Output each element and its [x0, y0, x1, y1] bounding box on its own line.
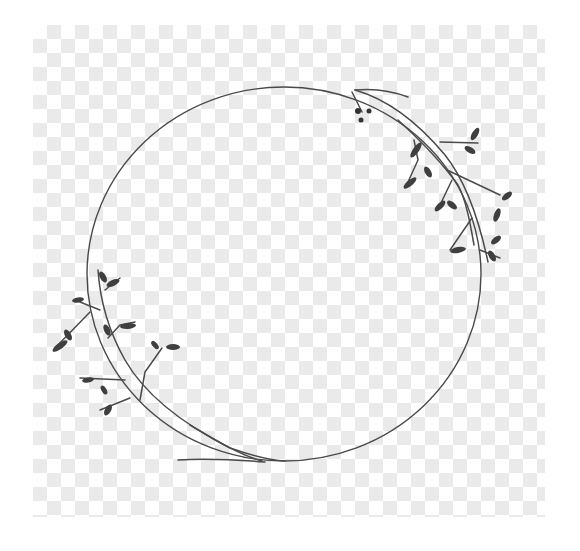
berry-icon	[367, 109, 372, 114]
image-canvas	[0, 0, 580, 551]
top-right-branch	[355, 90, 488, 262]
leaf-icon	[463, 144, 476, 155]
leaf-icon	[492, 207, 502, 222]
bottom-left-branch	[98, 270, 285, 461]
leaf-icon	[422, 165, 433, 178]
leaf-icon	[433, 199, 447, 213]
leaf-icon	[489, 234, 502, 246]
leaf-icon	[166, 344, 180, 350]
bottom-left-twig-e	[140, 348, 162, 400]
bottom-twig-long-b	[178, 459, 265, 462]
leaf-icon	[120, 322, 136, 329]
leaf-icon	[150, 340, 160, 351]
leaf-icon	[445, 199, 458, 211]
leaf-icon	[408, 141, 423, 159]
wreath-berries	[355, 108, 372, 123]
top-right-twig-e	[450, 218, 472, 250]
berry-icon	[355, 108, 361, 114]
floral-wreath-illustration	[0, 0, 580, 551]
leaf-icon	[99, 384, 108, 395]
berry-icon	[359, 118, 364, 123]
top-right-twig-c	[447, 170, 500, 195]
leaf-icon	[500, 190, 513, 202]
wreath-branches	[55, 89, 500, 462]
leaf-icon	[469, 126, 481, 141]
bottom-left-twig-g	[100, 398, 130, 410]
top-right-twig-a	[440, 142, 478, 143]
leaf-icon	[51, 338, 69, 353]
